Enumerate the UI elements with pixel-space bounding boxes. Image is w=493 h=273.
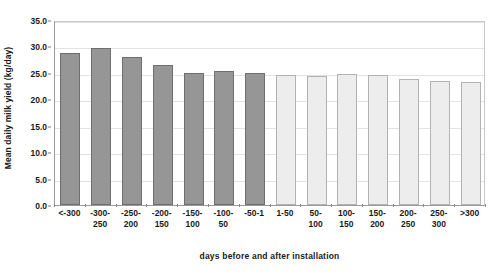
x-axis-tick-mark xyxy=(300,204,301,207)
x-axis-tick: 1-50 xyxy=(270,208,301,219)
bar xyxy=(307,76,327,206)
x-axis-tick-line: <-300 xyxy=(54,208,85,219)
x-axis-tick-mark xyxy=(454,204,455,207)
y-axis-tick: 5.0 xyxy=(35,175,47,185)
x-axis-tick-mark xyxy=(85,204,86,207)
x-axis-tick-mark xyxy=(331,204,332,207)
y-axis-tick-mark xyxy=(48,47,51,48)
x-axis-tick-line: -150- xyxy=(177,208,208,219)
x-axis-tick-mark xyxy=(208,204,209,207)
bar xyxy=(276,75,296,205)
x-axis-tick-line: 200- xyxy=(393,208,424,219)
x-axis-tick-mark xyxy=(116,204,117,207)
x-axis-tick-line: -250- xyxy=(116,208,147,219)
x-axis-tick: 50-100 xyxy=(300,208,331,229)
y-axis-tick: 35.0 xyxy=(30,16,47,26)
y-axis-title-label: Mean daily milk yield (kg/day) xyxy=(3,46,13,169)
y-axis-tick: 30.0 xyxy=(30,42,47,52)
bar xyxy=(245,73,265,205)
bar xyxy=(399,79,419,205)
bar xyxy=(461,82,481,205)
x-axis-tick-mark xyxy=(485,204,486,207)
x-axis-tick-line: -50-1 xyxy=(239,208,270,219)
x-axis-tick-line: 250 xyxy=(393,219,424,230)
x-axis-tick-line: 100- xyxy=(331,208,362,219)
x-axis-tick-line: 150 xyxy=(331,219,362,230)
plot-area xyxy=(54,21,485,206)
y-axis-tick: 25.0 xyxy=(30,69,47,79)
y-axis-tick-mark xyxy=(48,153,51,154)
x-axis-tick: -250-200 xyxy=(116,208,147,229)
x-axis-tick: -50-1 xyxy=(239,208,270,219)
y-axis-tick: 15.0 xyxy=(30,122,47,132)
x-axis-tick-line: -200- xyxy=(146,208,177,219)
y-axis-tick-mark xyxy=(48,21,51,22)
x-axis-tick-mark xyxy=(54,204,55,207)
x-axis-tick: -200-150 xyxy=(146,208,177,229)
bar xyxy=(91,48,111,205)
y-axis-tick: 20.0 xyxy=(30,95,47,105)
x-axis-tick-line: 200 xyxy=(116,219,147,230)
x-axis-tick-line: 50- xyxy=(300,208,331,219)
x-axis-tick: >300 xyxy=(454,208,485,219)
y-axis-tick-mark xyxy=(48,100,51,101)
x-axis-tick: <-300 xyxy=(54,208,85,219)
x-axis-tick-line: 200 xyxy=(362,219,393,230)
x-axis-tick-mark xyxy=(177,204,178,207)
bar xyxy=(368,75,388,205)
x-axis-tick-line: 300 xyxy=(423,219,454,230)
bar-chart: Mean daily milk yield (kg/day) 0.05.010.… xyxy=(0,0,493,273)
x-axis-tick-mark xyxy=(362,204,363,207)
x-axis-tick: -100-50 xyxy=(208,208,239,229)
y-axis-tick: 0.0 xyxy=(35,201,47,211)
bars-layer xyxy=(55,22,484,205)
x-axis-title: days before and after installation xyxy=(54,251,485,261)
bar xyxy=(214,71,234,205)
x-axis-tick-line: 1-50 xyxy=(270,208,301,219)
x-axis-tick-line: 150 xyxy=(146,219,177,230)
x-axis-tick-mark xyxy=(423,204,424,207)
x-axis-tick: -300-250 xyxy=(85,208,116,229)
x-axis-tick-mark xyxy=(270,204,271,207)
x-axis-tick-labels: <-300-300-250-250-200-200-150-150-100-10… xyxy=(54,208,485,242)
y-axis-tick-mark xyxy=(48,126,51,127)
x-axis-tick-line: -100- xyxy=(208,208,239,219)
bar xyxy=(122,57,142,205)
y-axis-tick-labels: 0.05.010.015.020.025.030.035.0 xyxy=(16,21,51,206)
x-axis-tick-mark xyxy=(239,204,240,207)
x-axis-tick-line: 50 xyxy=(208,219,239,230)
y-axis-title: Mean daily milk yield (kg/day) xyxy=(0,0,16,215)
x-axis-tick-line: 150- xyxy=(362,208,393,219)
x-axis-tick-line: 100 xyxy=(300,219,331,230)
x-axis-tick-mark xyxy=(393,204,394,207)
y-axis-tick-mark xyxy=(48,206,51,207)
x-axis-tick-line: -300- xyxy=(85,208,116,219)
y-axis-tick-mark xyxy=(48,73,51,74)
y-axis-tick: 10.0 xyxy=(30,148,47,158)
x-axis-tick: -150-100 xyxy=(177,208,208,229)
bar xyxy=(430,81,450,205)
x-axis-tick: 150-200 xyxy=(362,208,393,229)
bar xyxy=(153,65,173,205)
x-axis-tick-line: 250- xyxy=(423,208,454,219)
x-axis-tick-line: 250 xyxy=(85,219,116,230)
x-axis-tick-line: 100 xyxy=(177,219,208,230)
x-axis-tick: 100-150 xyxy=(331,208,362,229)
x-axis-tick: 200-250 xyxy=(393,208,424,229)
bar xyxy=(60,53,80,205)
x-axis-tick-line: >300 xyxy=(454,208,485,219)
x-axis-tick: 250-300 xyxy=(423,208,454,229)
y-axis-tick-mark xyxy=(48,179,51,180)
x-axis-tick-mark xyxy=(146,204,147,207)
bar xyxy=(184,73,204,205)
bar xyxy=(337,74,357,205)
